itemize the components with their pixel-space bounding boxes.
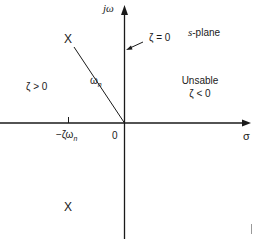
unstable-title: Unsable	[175, 76, 225, 86]
origin-label: 0	[112, 131, 118, 141]
zeta-zero-pointer-arrowhead-icon	[126, 46, 133, 51]
s-plane-diagram: jω ζ = 0 s-plane X ωn ζ > 0 Unsable ζ < …	[0, 0, 253, 239]
zeta-zero-pointer	[130, 42, 143, 48]
upper-pole-marker: X	[64, 33, 72, 45]
zeta-zero-label: ζ = 0	[149, 33, 170, 43]
plane-title: s-plane	[188, 27, 220, 38]
real-part-label: −ζωn	[56, 130, 77, 142]
edge-artifact	[251, 224, 252, 234]
omega-n-label: ωn	[90, 76, 102, 88]
imaginary-axis-label: jω	[103, 3, 114, 14]
lower-pole-marker: X	[64, 201, 72, 213]
real-axis-arrowhead-icon	[242, 120, 251, 127]
unstable-region: Unsable ζ < 0	[175, 76, 225, 99]
real-axis-label: σ	[243, 131, 250, 142]
unstable-condition: ζ < 0	[175, 89, 225, 99]
imaginary-axis-arrowhead-icon	[121, 5, 128, 15]
stable-region-label: ζ > 0	[26, 82, 47, 92]
